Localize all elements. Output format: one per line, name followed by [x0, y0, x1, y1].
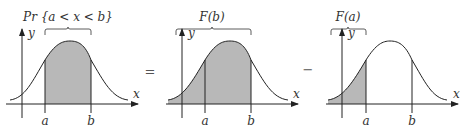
tick-b: b [87, 114, 95, 128]
panel-probability-interval: Pr {a < x < b} y x a b [6, 10, 140, 128]
brace [45, 27, 91, 35]
y-label: y [27, 26, 35, 40]
shaded-area [10, 41, 128, 104]
x-label: x [453, 87, 460, 101]
equals-operator: = [145, 64, 156, 79]
tick-a: a [41, 114, 48, 128]
y-label: y [187, 26, 195, 40]
diagram-canvas: Pr {a < x < b} y x a b = F(b) y x a b − … [0, 0, 473, 135]
x-label: x [293, 87, 300, 101]
tick-a: a [201, 114, 208, 128]
tick-b: b [247, 114, 255, 128]
panel-title: Pr {a < x < b} [22, 10, 113, 24]
shaded-area [168, 41, 288, 104]
tick-a: a [362, 114, 369, 128]
tick-b: b [408, 114, 416, 128]
panel-title: F(b) [198, 10, 225, 24]
panel-cdf-a: F(a) y x a b [326, 10, 460, 128]
x-label: x [133, 87, 140, 101]
y-label: y [347, 26, 355, 40]
shaded-area [328, 41, 447, 104]
minus-operator: − [303, 62, 314, 77]
panel-cdf-b: F(b) y x a b [166, 10, 300, 128]
panel-title: F(a) [335, 10, 361, 24]
